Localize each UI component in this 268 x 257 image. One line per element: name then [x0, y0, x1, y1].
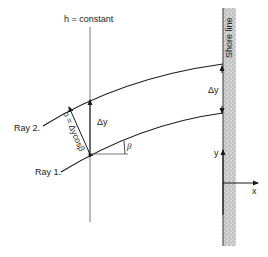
- ray-2-label: Ray 2.: [14, 123, 40, 133]
- delta-y-label-left: Δy: [97, 117, 108, 127]
- depth-contour-label: h = constant: [64, 14, 114, 24]
- shore-line-label: Shore line: [224, 17, 234, 58]
- ray-1-label: Ray 1.: [35, 167, 61, 177]
- beta-arc-tick: [124, 141, 125, 154]
- wave-refraction-diagram: Shore line h = constant Ray 2. Ray 1. Δy…: [0, 0, 268, 257]
- b-formula-label: b = Δycosβ: [61, 110, 87, 153]
- y-axis-label: y: [214, 148, 219, 158]
- delta-y-label-shore: Δy: [208, 85, 219, 95]
- x-axis-label: x: [252, 186, 257, 196]
- beta-label: β: [126, 141, 132, 151]
